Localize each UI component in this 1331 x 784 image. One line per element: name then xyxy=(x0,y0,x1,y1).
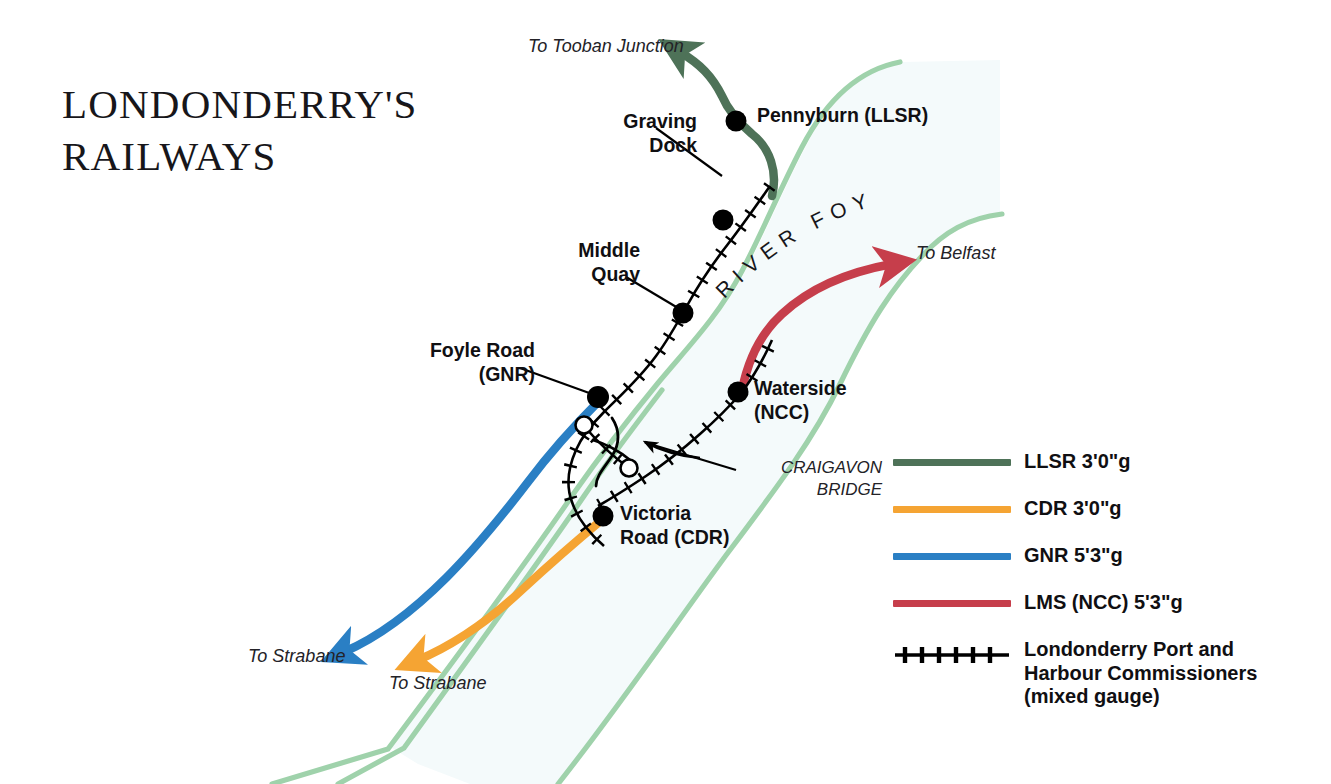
cdr-swatch-line xyxy=(893,506,1011,513)
legend-harbour-line2: Harbour Commissioners xyxy=(1024,662,1257,686)
middle-quay-label: Middle Quay xyxy=(530,239,640,287)
waterside-label: Waterside (NCC) xyxy=(754,377,924,425)
station-dot-waterside xyxy=(728,382,749,403)
to-strabane-gnr-label: To Strabane xyxy=(248,646,345,668)
legend-row-harbour: Londonderry Port and Harbour Commissione… xyxy=(893,636,1313,709)
legend-label-harbour: Londonderry Port and Harbour Commissione… xyxy=(1011,636,1257,709)
gnr-swatch-line xyxy=(893,553,1011,560)
station-dot-foyle-road xyxy=(587,386,609,408)
legend-swatch-llsr xyxy=(893,448,1011,474)
legend: LLSR 3'0"g CDR 3'0"g GNR 5'3"g LMS (NCC)… xyxy=(893,448,1313,709)
to-tooban-junction-label: To Tooban Junction xyxy=(528,36,684,58)
legend-label-llsr: LLSR 3'0"g xyxy=(1011,448,1130,474)
legend-label-cdr: CDR 3'0"g xyxy=(1011,495,1122,521)
pennyburn-label: Pennyburn (LLSR) xyxy=(757,104,928,128)
legend-swatch-gnr xyxy=(893,542,1011,568)
legend-row-lms: LMS (NCC) 5'3"g xyxy=(893,589,1313,619)
legend-harbour-line3: (mixed gauge) xyxy=(1024,685,1257,709)
station-dot-victoria-road xyxy=(593,506,614,527)
station-dot-graving-dock xyxy=(713,210,734,231)
legend-row-cdr: CDR 3'0"g xyxy=(893,495,1313,525)
legend-row-llsr: LLSR 3'0"g xyxy=(893,448,1313,478)
legend-swatch-harbour xyxy=(893,636,1011,670)
craigavon-bridge-label: CRAIGAVON BRIDGE xyxy=(742,457,882,501)
to-belfast-label: To Belfast xyxy=(916,243,995,265)
lms-swatch-line xyxy=(893,600,1011,607)
harbour-track-icon xyxy=(893,642,1011,668)
to-strabane-cdr-label: To Strabane xyxy=(389,673,486,695)
legend-harbour-line1: Londonderry Port and xyxy=(1024,638,1257,662)
foyle-road-label: Foyle Road (GNR) xyxy=(385,339,535,387)
junction-dot-bridge-north xyxy=(576,417,593,434)
station-dot-pennyburn xyxy=(726,111,747,132)
station-dot-middle-quay xyxy=(673,303,694,324)
llsr-swatch-line xyxy=(893,459,1011,466)
map-title-line2: RAILWAYS xyxy=(62,130,582,182)
legend-swatch-cdr xyxy=(893,495,1011,521)
legend-swatch-lms xyxy=(893,589,1011,615)
legend-label-lms: LMS (NCC) 5'3"g xyxy=(1011,589,1183,615)
legend-label-gnr: GNR 5'3"g xyxy=(1011,542,1123,568)
legend-row-gnr: GNR 5'3"g xyxy=(893,542,1313,572)
map-title: LONDONDERRY'S RAILWAYS xyxy=(62,78,582,183)
junction-dot-bridge-south xyxy=(621,460,638,477)
map-title-line1: LONDONDERRY'S xyxy=(62,78,582,130)
victoria-road-label: Victoria Road (CDR) xyxy=(620,502,800,550)
railway-map: RIVER FOYLE xyxy=(0,0,1331,784)
graving-dock-label: Graving Dock xyxy=(582,110,697,158)
